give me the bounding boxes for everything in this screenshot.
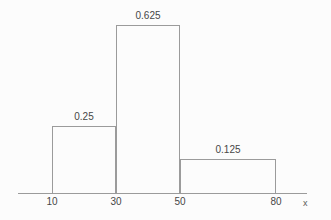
bar-value-label: 0.625	[116, 9, 180, 22]
histogram-bar	[180, 159, 276, 193]
x-tick-label: 50	[168, 196, 192, 207]
bar-value-label: 0.25	[52, 110, 116, 123]
x-tick-label: 30	[104, 196, 128, 207]
bar-value-label: 0.125	[180, 143, 276, 156]
histogram-chart: 0.250.6250.125 10305080 x	[0, 0, 331, 220]
histogram-bar	[52, 126, 116, 193]
x-tick-label: 10	[40, 196, 64, 207]
x-axis-line	[18, 193, 307, 194]
x-tick-label: 80	[264, 196, 288, 207]
histogram-bar	[116, 25, 180, 193]
x-axis-title: x	[303, 198, 308, 208]
